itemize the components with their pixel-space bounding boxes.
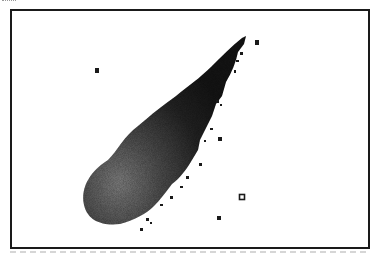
outlier-point [199,163,202,166]
outlier-point [217,216,221,220]
scatter-plot [0,0,378,269]
density-cloud [83,36,246,231]
outlier-point [218,137,222,141]
outlier-point [255,40,259,45]
outlier-point-hollow [240,195,245,200]
outlier-point [95,68,99,73]
